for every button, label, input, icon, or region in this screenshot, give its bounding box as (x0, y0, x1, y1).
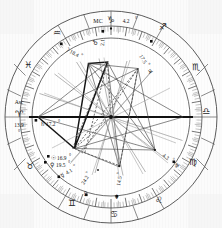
planet-degree-unit-sun: ° (69, 153, 71, 159)
inner-point-a (97, 169, 99, 171)
ascendant-sign-glyph: ♈ (15, 109, 24, 119)
sign-glyph-pisces: ♓ (24, 60, 32, 70)
chart-canvas: ♉ ♊ ♋ ♌ ♍ ♎ ♏ ♐ ♒ ♓ Asc ♈ 13.9 ° MC ♑ 4.… (0, 0, 222, 228)
sign-glyph-taurus: ♉ (26, 161, 34, 171)
planet-degree-venus: 19.5 (56, 162, 66, 168)
midheaven-sign-glyph: ♑ (107, 15, 115, 25)
planet-marker-moon (60, 43, 63, 46)
planet-glyph-venus: ♀ (50, 161, 54, 168)
sign-glyph-libra: ♎ (202, 106, 210, 116)
sign-glyph-leo: ♌ (155, 195, 163, 205)
ascendant-degree-unit: ° (18, 129, 20, 135)
planet-marker-venus (44, 161, 47, 164)
inner-point-b (118, 165, 120, 167)
planet-marker-jupiter (150, 40, 153, 43)
sign-glyph-cancer: ♋ (110, 209, 118, 219)
planet-degree-saturn: 17.2 (46, 121, 56, 127)
planet-glyph-saturn: ♄ (40, 120, 45, 127)
planet-marker-saturn (35, 119, 38, 122)
ascendant-degree: 13.9 (14, 122, 24, 128)
sign-glyph-gemini: ♊ (68, 198, 76, 208)
planet-glyph-pluto: ♇ (83, 190, 88, 197)
planet-glyph-mars: ♂ (91, 40, 98, 46)
sign-glyph-scorpio: ♏ (192, 62, 200, 72)
ascendant-abbr: Asc (15, 99, 24, 105)
midheaven-abbr: MC (93, 18, 102, 24)
planet-degree-unit-venus: ° (68, 160, 70, 166)
midheaven-degree-unit: ° (135, 16, 137, 22)
chart-center-point (109, 115, 113, 119)
planet-degree-sun: 16.9 (57, 155, 67, 161)
inner-point-c (154, 149, 156, 151)
planet-marker-sun (47, 155, 50, 158)
planet-marker-mars (102, 30, 105, 33)
planet-glyph-sun: ☉ (51, 154, 56, 161)
midheaven-degree: 4.2 (123, 18, 130, 24)
planet-degree-unit-saturn: ° (58, 119, 60, 125)
sign-glyph-sagittarius: ♐ (159, 22, 167, 32)
planet-glyph-neptune: ♆ (114, 193, 119, 200)
planet-degree-mars: 2.1 (99, 39, 105, 46)
astrology-chart-wheel: ♉ ♊ ♋ ♌ ♍ ♎ ♏ ♐ ♒ ♓ Asc ♈ 13.9 ° MC ♑ 4.… (0, 0, 222, 228)
sign-glyph-virgo-lower: ♍ (189, 157, 197, 167)
sign-glyph-aquarius: ♒ (53, 28, 61, 38)
